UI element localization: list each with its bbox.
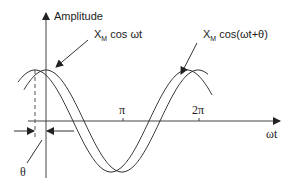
curve-label-leading: XM cos(ωt+θ) (203, 28, 268, 42)
y-axis-label: Amplitude (54, 10, 103, 22)
curve-label-reference: XM cos ωt (94, 28, 142, 42)
pointer-leading (181, 43, 197, 74)
phase-diagram: θ Amplitude ωt π 2π XM cos ωt XM cos(ωt+… (0, 0, 296, 186)
pointer-reference (56, 40, 88, 67)
tick-label-2pi: 2π (192, 103, 204, 117)
theta-label: θ (20, 165, 26, 179)
theta-leader (27, 140, 42, 163)
x-axis-label: ωt (266, 127, 278, 141)
tick-label-pi: π (119, 103, 125, 117)
